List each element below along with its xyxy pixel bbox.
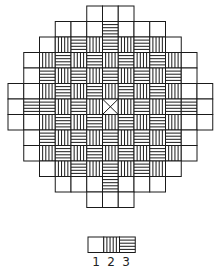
grid-cell bbox=[118, 37, 134, 53]
grid-cell bbox=[8, 84, 24, 100]
grid-cell bbox=[55, 146, 71, 162]
legend-label-2: 2 bbox=[103, 256, 119, 268]
grid-cell bbox=[40, 53, 56, 69]
grid-cell bbox=[87, 53, 103, 69]
grid-cell bbox=[150, 37, 166, 53]
grid-cell bbox=[166, 146, 182, 162]
grid-cell bbox=[40, 161, 56, 177]
grid-cell bbox=[118, 99, 134, 115]
grid-cell bbox=[40, 115, 56, 131]
grid-cell bbox=[118, 115, 134, 131]
grid-cell bbox=[40, 84, 56, 100]
grid-cell bbox=[103, 130, 119, 146]
grid-cell bbox=[87, 146, 103, 162]
grid-cell bbox=[55, 68, 71, 84]
grid-cell bbox=[197, 99, 213, 115]
grid-cell bbox=[87, 161, 103, 177]
legend-cell-1 bbox=[88, 237, 104, 253]
grid-cell bbox=[103, 37, 119, 53]
grid-cell bbox=[181, 130, 197, 146]
grid-cell bbox=[134, 161, 150, 177]
grid-cell bbox=[150, 84, 166, 100]
grid-cell bbox=[197, 115, 213, 131]
grid-cell bbox=[40, 146, 56, 162]
grid-cell bbox=[103, 161, 119, 177]
grid-cell bbox=[166, 37, 182, 53]
grid-cell bbox=[134, 53, 150, 69]
grid-cell bbox=[134, 146, 150, 162]
grid-cell bbox=[24, 99, 40, 115]
grid-cell bbox=[55, 84, 71, 100]
grid-cell bbox=[134, 115, 150, 131]
grid-cell bbox=[181, 146, 197, 162]
grid-cell bbox=[87, 37, 103, 53]
grid-cell bbox=[166, 84, 182, 100]
grid-cell bbox=[87, 84, 103, 100]
grid-cell bbox=[24, 68, 40, 84]
grid-cell bbox=[71, 177, 87, 193]
grid-cell bbox=[150, 53, 166, 69]
grid-cell bbox=[103, 84, 119, 100]
grid-cell bbox=[87, 115, 103, 131]
grid-cell bbox=[71, 115, 87, 131]
legend-label-3: 3 bbox=[118, 256, 134, 268]
grid-cell bbox=[181, 68, 197, 84]
grid-cell bbox=[103, 68, 119, 84]
grid-cell bbox=[40, 130, 56, 146]
grid-cell bbox=[103, 177, 119, 193]
grid-cell bbox=[118, 130, 134, 146]
tile-pattern-diagram bbox=[0, 0, 218, 270]
grid-cell bbox=[118, 68, 134, 84]
grid-cell bbox=[71, 68, 87, 84]
grid-cell bbox=[71, 146, 87, 162]
grid-cell bbox=[103, 53, 119, 69]
grid-cell bbox=[118, 53, 134, 69]
grid-cell bbox=[71, 130, 87, 146]
grid-cell bbox=[87, 22, 103, 38]
grid-cell bbox=[150, 161, 166, 177]
tile-grid bbox=[8, 6, 213, 208]
grid-cell bbox=[8, 115, 24, 131]
grid-cell bbox=[71, 161, 87, 177]
grid-cell bbox=[150, 177, 166, 193]
grid-cell bbox=[55, 130, 71, 146]
grid-cell bbox=[181, 84, 197, 100]
grid-cell bbox=[103, 192, 119, 208]
grid-cell bbox=[55, 99, 71, 115]
grid-cell bbox=[134, 22, 150, 38]
grid-cell bbox=[87, 68, 103, 84]
grid-cell bbox=[71, 37, 87, 53]
grid-cell bbox=[118, 146, 134, 162]
center-cell bbox=[103, 99, 119, 115]
grid-cell bbox=[103, 146, 119, 162]
grid-cell bbox=[166, 99, 182, 115]
grid-cell bbox=[71, 99, 87, 115]
grid-cell bbox=[103, 115, 119, 131]
grid-cell bbox=[150, 22, 166, 38]
grid-cell bbox=[103, 6, 119, 22]
grid-cell bbox=[118, 192, 134, 208]
grid-cell bbox=[166, 53, 182, 69]
grid-cell bbox=[166, 68, 182, 84]
grid-cell bbox=[150, 130, 166, 146]
grid-cell bbox=[55, 22, 71, 38]
grid-cell bbox=[150, 146, 166, 162]
legend-cell-3 bbox=[120, 237, 136, 253]
grid-cell bbox=[71, 53, 87, 69]
grid-cell bbox=[87, 99, 103, 115]
grid-cell bbox=[40, 37, 56, 53]
grid-cell bbox=[24, 115, 40, 131]
grid-cell bbox=[181, 115, 197, 131]
grid-cell bbox=[150, 115, 166, 131]
grid-cell bbox=[197, 84, 213, 100]
legend-label-1: 1 bbox=[88, 256, 104, 268]
grid-cell bbox=[134, 68, 150, 84]
grid-cell bbox=[150, 68, 166, 84]
grid-cell bbox=[181, 53, 197, 69]
grid-cell bbox=[118, 177, 134, 193]
grid-cell bbox=[118, 6, 134, 22]
grid-cell bbox=[55, 53, 71, 69]
grid-cell bbox=[118, 22, 134, 38]
grid-cell bbox=[181, 99, 197, 115]
grid-cell bbox=[134, 99, 150, 115]
